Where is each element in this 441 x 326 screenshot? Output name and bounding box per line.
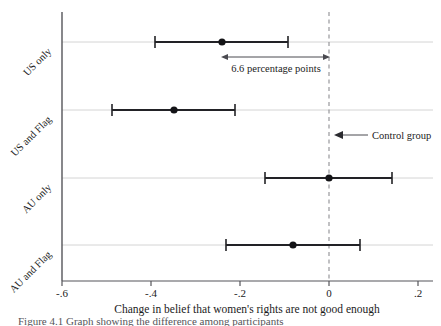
plot-background [0, 0, 441, 326]
figure-caption-text: Figure 4.1 Graph showing the difference … [18, 315, 284, 326]
xtick-label-zero: 0 [326, 287, 332, 299]
estimate-marker-us-only [218, 38, 225, 45]
figure-caption: Figure 4.1 Graph showing the difference … [18, 315, 284, 326]
xtick-label-neg-point-4: -.4 [145, 287, 157, 299]
annotation-percentage-points: 6.6 percentage points [221, 54, 330, 74]
estimate-marker-au-and-flag [289, 241, 296, 248]
estimate-marker-au-only [325, 174, 332, 181]
xtick-label-point-2: .2 [414, 287, 422, 299]
figure-container: -.6 -.4 -.2 0 .2 Change in belief that w… [0, 0, 441, 326]
xtick-label-neg-point-2: -.2 [234, 287, 246, 299]
estimate-marker-us-and-flag [170, 106, 177, 113]
coefficient-plot: -.6 -.4 -.2 0 .2 Change in belief that w… [0, 0, 441, 326]
control-group-label: Control group [372, 130, 431, 141]
x-axis-title: Change in belief that women's rights are… [114, 303, 380, 316]
pct-points-label: 6.6 percentage points [231, 63, 321, 74]
xtick-label-neg-point-6: -.6 [56, 287, 68, 299]
